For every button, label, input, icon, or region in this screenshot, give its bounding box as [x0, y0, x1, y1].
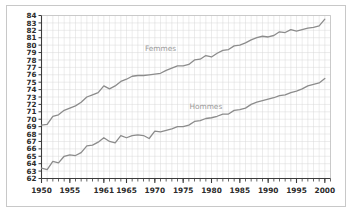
- x-tick-label: 1955: [60, 186, 81, 195]
- y-tick-label: 84: [26, 11, 36, 20]
- x-tick-label: 1985: [230, 186, 251, 195]
- x-tick-label: 1995: [286, 186, 307, 195]
- line-chart: 6263646566676869707172737475767778798081…: [0, 0, 359, 219]
- x-tick-label: 1950: [31, 186, 52, 195]
- x-tick-label: 2000: [315, 186, 336, 195]
- x-tick-label: 1961: [94, 186, 115, 195]
- x-tick-label: 1990: [258, 186, 279, 195]
- x-tick-label: 1970: [145, 186, 166, 195]
- x-tick-label: 1980: [201, 186, 222, 195]
- x-tick-label: 1965: [116, 186, 137, 195]
- series-annotation: Hommes: [189, 102, 222, 111]
- x-tick-label: 1975: [173, 186, 194, 195]
- chart-figure: 6263646566676869707172737475767778798081…: [0, 0, 359, 219]
- series-annotation: Femmes: [145, 44, 176, 53]
- grid-layer: [42, 16, 331, 179]
